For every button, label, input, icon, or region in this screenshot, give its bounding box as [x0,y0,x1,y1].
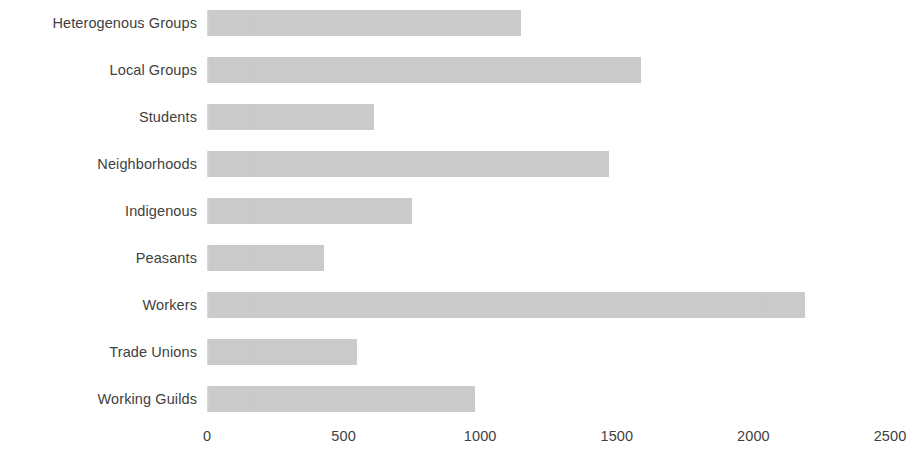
bar [207,198,412,224]
category-label: Local Groups [110,47,197,94]
plot-area: Heterogenous GroupsLocal GroupsStudentsN… [0,0,917,420]
category-label: Indigenous [125,188,197,235]
bar-row: Local Groups [0,47,917,94]
bar-row: Working Guilds [0,376,917,423]
x-tick-label: 2000 [737,428,770,444]
x-tick-label: 2500 [874,428,907,444]
bar [207,57,641,83]
bar-row: Peasants [0,235,917,282]
bar [207,386,475,412]
category-label: Neighborhoods [97,141,197,188]
x-tick-label: 500 [331,428,356,444]
bar-row: Trade Unions [0,329,917,376]
x-tick-label: 1000 [464,428,497,444]
bar [207,10,521,36]
bar [207,292,805,318]
bar-row: Students [0,94,917,141]
bar [207,245,324,271]
category-label: Students [139,94,197,141]
bar [207,104,374,130]
bar-row: Indigenous [0,188,917,235]
category-label: Trade Unions [109,329,197,376]
bar-row: Heterogenous Groups [0,0,917,47]
bar [207,339,357,365]
bar-row: Neighborhoods [0,141,917,188]
category-label: Working Guilds [98,376,197,423]
bar-row: Workers [0,282,917,329]
category-label: Workers [143,282,197,329]
bar [207,151,609,177]
category-label: Heterogenous Groups [52,0,197,47]
x-tick-label: 0 [203,428,211,444]
x-axis: 05001000150020002500 [0,420,917,460]
x-tick-label: 1500 [600,428,633,444]
bar-chart: Heterogenous GroupsLocal GroupsStudentsN… [0,0,917,460]
category-label: Peasants [136,235,197,282]
